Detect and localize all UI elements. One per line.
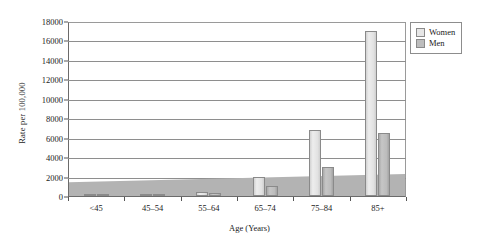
x-tick-label: 55–64 [198,203,219,213]
bar-group [84,21,109,196]
gridline [68,100,406,101]
y-tick-label: 12000 [31,75,68,85]
x-tick-label: 85+ [371,203,384,213]
bar-women-3 [253,177,265,196]
y-axis-title: Rate per 100,000 [17,53,27,173]
bar-men-2 [209,193,221,196]
x-tick-label: 65–74 [255,203,276,213]
bar-group [253,21,278,196]
bar-group [196,21,221,196]
bar-men-0 [97,194,109,196]
y-tick-label: 16000 [31,36,68,46]
gridline [68,80,406,81]
gridline [68,41,406,42]
y-tick-label: 0 [31,192,68,202]
bar-group [365,21,390,196]
legend-swatch-men-icon [416,39,425,48]
x-tick-mark [124,197,125,201]
x-tick-label: 45–54 [142,203,163,213]
x-axis-title: Age (Years) [0,223,499,233]
x-tick-mark [406,197,407,201]
plot-area: 0200040006000800010000120001400016000180… [68,22,406,197]
bar-women-5 [365,31,377,196]
legend-item-men: Men [416,38,455,49]
bar-men-3 [266,186,278,196]
y-tick-label: 2000 [31,173,68,183]
x-tick-mark [237,197,238,201]
y-tick-label: 10000 [31,95,68,105]
x-tick-label: 75–84 [311,203,332,213]
bar-women-4 [309,130,321,196]
gridline [68,61,406,62]
plot-frame [68,22,406,197]
x-tick-mark [181,197,182,201]
gridline [68,158,406,159]
legend-item-women: Women [416,27,455,38]
x-tick-label: <45 [90,203,103,213]
bar-men-1 [153,194,165,196]
legend: Women Men [410,22,462,54]
x-tick-mark [350,197,351,201]
bar-women-1 [140,194,152,196]
bar-group [309,21,334,196]
gridline [68,119,406,120]
y-tick-label: 6000 [31,134,68,144]
bar-men-5 [378,133,390,196]
bar-women-2 [196,192,208,196]
bar-men-4 [322,167,334,196]
x-tick-mark [68,197,69,201]
gridline [68,139,406,140]
legend-label-men: Men [429,38,445,49]
y-tick-label: 4000 [31,153,68,163]
bar-women-0 [84,194,96,196]
y-tick-label: 18000 [31,17,68,27]
x-tick-mark [293,197,294,201]
legend-label-women: Women [429,27,455,38]
y-tick-label: 8000 [31,114,68,124]
y-tick-label: 14000 [31,56,68,66]
bar-group [140,21,165,196]
bar-chart: Rate per 100,000 02000400060008000100001… [0,0,499,248]
legend-swatch-women-icon [416,28,425,37]
